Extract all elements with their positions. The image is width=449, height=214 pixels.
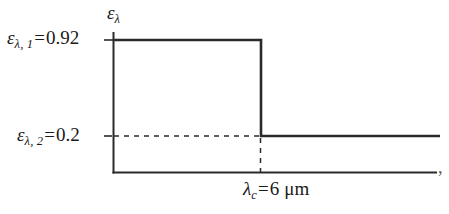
emissivity-1-value: 0.92 [46, 27, 79, 48]
cutoff-wavelength-unit: μm [279, 178, 309, 199]
cutoff-wavelength-operator: = [257, 178, 270, 199]
emissivity-2-label: ελ, 2=0.2 [17, 125, 80, 144]
emissivity-2-symbol: ε [17, 124, 25, 145]
emissivity-1-operator: = [33, 27, 46, 48]
cutoff-wavelength-symbol: λ [243, 178, 251, 199]
emissivity-step-curve [113, 40, 440, 136]
trailing-comma-mark: , [438, 158, 443, 176]
emissivity-1-label: ελ, 1=0.92 [7, 28, 79, 47]
emissivity-2-operator: = [43, 124, 56, 145]
cutoff-wavelength-subscript: c [251, 188, 257, 202]
y-axis-label: ελ [107, 3, 120, 22]
emissivity-1-subscript: λ, 1 [15, 37, 34, 51]
emissivity-1-symbol: ε [7, 27, 15, 48]
cutoff-wavelength-value: 6 [270, 178, 280, 199]
cutoff-wavelength-label: λc=6μm [243, 179, 309, 198]
emissivity-2-subscript: λ, 2 [25, 134, 44, 148]
emissivity-2-value: 0.2 [56, 124, 80, 145]
y-axis-subscript: λ [115, 12, 121, 26]
y-axis-symbol: ε [107, 2, 115, 23]
emissivity-step-figure: ελ ελ, 1=0.92 ελ, 2=0.2 λc=6μm , [0, 0, 449, 214]
